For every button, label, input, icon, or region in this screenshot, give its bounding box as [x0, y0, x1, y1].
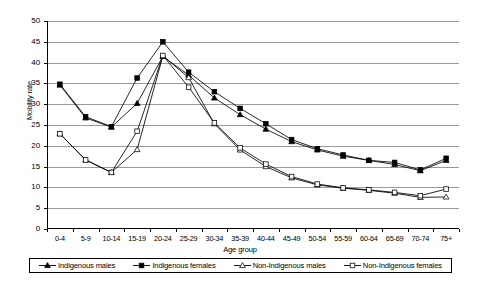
- x-axis-tick-mark: [305, 229, 306, 232]
- x-axis-tick-label: 55-59: [334, 234, 352, 243]
- legend-label: Indigenous females: [152, 261, 215, 270]
- filled-square-icon: [133, 261, 150, 270]
- x-axis-tick-label: 15-19: [128, 234, 146, 243]
- x-axis-tick-label: 60-64: [360, 234, 378, 243]
- gridline: [48, 42, 459, 43]
- x-axis-tick-label: 50-54: [309, 234, 327, 243]
- gridline: [48, 208, 459, 209]
- y-axis-tick-mark: [44, 187, 47, 188]
- x-axis-tick-mark: [356, 229, 357, 232]
- gridline: [48, 146, 459, 147]
- y-axis-tick-mark: [44, 208, 47, 209]
- x-axis-tick-mark: [124, 229, 125, 232]
- y-axis-tick-mark: [44, 42, 47, 43]
- y-axis-tick-mark: [44, 146, 47, 147]
- x-axis-tick-mark: [408, 229, 409, 232]
- x-axis-tick-label: 5-9: [81, 234, 91, 243]
- filled-square-marker: [140, 263, 145, 268]
- open-square-marker: [350, 263, 355, 268]
- gridline: [48, 21, 459, 22]
- y-axis-tick-label: 50: [18, 17, 40, 25]
- gridline: [48, 125, 459, 126]
- y-axis-tick-mark: [44, 125, 47, 126]
- filled-triangle-icon: [39, 261, 56, 270]
- chart-legend: Indigenous malesIndigenous femalesNon-In…: [29, 258, 452, 273]
- y-axis-tick-label: 20: [18, 142, 40, 150]
- x-axis-tick-label: 70-74: [412, 234, 430, 243]
- x-axis-tick-mark: [202, 229, 203, 232]
- y-axis-tick-label: 5: [18, 204, 40, 212]
- y-axis-tick-label: 0: [18, 225, 40, 233]
- x-axis-tick-mark: [459, 229, 460, 232]
- x-axis-tick-label: 75+: [440, 234, 452, 243]
- legend-label: Non-Indigenous females: [363, 261, 442, 270]
- x-axis-tick-mark: [47, 229, 48, 232]
- plot-area: [47, 21, 459, 229]
- gridline: [48, 63, 459, 64]
- x-axis-tick-label: 0-4: [55, 234, 65, 243]
- y-axis-tick-label: 10: [18, 183, 40, 191]
- x-axis-title: Age group: [0, 245, 480, 254]
- x-axis-tick-mark: [176, 229, 177, 232]
- gridline: [48, 187, 459, 188]
- x-axis-tick-mark: [99, 229, 100, 232]
- open-triangle-icon: [234, 261, 251, 270]
- gridline: [48, 167, 459, 168]
- y-axis-tick-mark: [44, 83, 47, 84]
- legend-item-indigenous-females[interactable]: Indigenous females: [133, 261, 215, 270]
- y-axis-tick-mark: [44, 167, 47, 168]
- x-axis-tick-label: 40-44: [257, 234, 275, 243]
- legend-item-indigenous-males[interactable]: Indigenous males: [39, 261, 115, 270]
- y-axis-tick-mark: [44, 21, 47, 22]
- x-axis-tick-mark: [227, 229, 228, 232]
- x-axis-tick-label: 35-39: [231, 234, 249, 243]
- legend-item-non-indigenous-females[interactable]: Non-Indigenous females: [344, 261, 442, 270]
- legend-label: Non-Indigenous males: [253, 261, 326, 270]
- x-axis-tick-mark: [253, 229, 254, 232]
- y-axis-tick-mark: [44, 63, 47, 64]
- x-axis-tick-mark: [382, 229, 383, 232]
- x-axis-tick-label: 20-24: [154, 234, 172, 243]
- gridline: [48, 104, 459, 105]
- y-axis-title: Mobility rate: [25, 66, 34, 136]
- legend-item-non-indigenous-males[interactable]: Non-Indigenous males: [234, 261, 326, 270]
- x-axis-tick-mark: [150, 229, 151, 232]
- open-square-icon: [344, 261, 361, 270]
- x-axis-tick-mark: [279, 229, 280, 232]
- y-axis-tick-mark: [44, 104, 47, 105]
- legend-label: Indigenous males: [58, 261, 115, 270]
- x-axis-tick-label: 30-34: [206, 234, 224, 243]
- x-axis-tick-label: 10-14: [103, 234, 121, 243]
- y-axis-tick-label: 15: [18, 163, 40, 171]
- x-axis-tick-label: 65-69: [386, 234, 404, 243]
- x-axis-tick-label: 25-29: [180, 234, 198, 243]
- x-axis-tick-mark: [73, 229, 74, 232]
- y-axis-tick-label: 45: [18, 38, 40, 46]
- x-axis-tick-mark: [330, 229, 331, 232]
- x-axis-tick-label: 45-49: [283, 234, 301, 243]
- gridline: [48, 83, 459, 84]
- chart-container: 05101520253035404550 Mobility rate 0-45-…: [0, 0, 480, 282]
- x-axis-tick-mark: [433, 229, 434, 232]
